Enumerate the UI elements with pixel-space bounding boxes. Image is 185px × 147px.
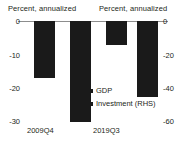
legend-item-gdp: GDP (89, 84, 156, 97)
legend-item-investment: Investment (RHS) (89, 97, 156, 110)
bar-gdp-2019q3 (106, 21, 127, 45)
left-axis-title: Percent, annualized (8, 4, 76, 13)
right-tick-0: 0 (163, 17, 185, 26)
legend-label-gdp: GDP (96, 86, 112, 95)
right-axis-title: Percent, annualized (99, 4, 167, 13)
left-tick-2: -20 (0, 84, 20, 93)
left-tick-0: 0 (0, 17, 20, 26)
bar-gdp-2009q4 (34, 21, 55, 78)
left-tick-3: -30 (0, 117, 20, 126)
category-label-2009q4: 2009Q4 (27, 126, 54, 135)
bar-investment-2009q4 (70, 21, 91, 122)
bar-chart: Percent, annualized Percent, annualized … (0, 0, 185, 147)
right-tick-2: -40 (163, 84, 185, 93)
left-tick-1: -10 (0, 51, 20, 60)
category-label-2019q3: 2019Q3 (93, 126, 120, 135)
right-tick-1: -20 (163, 51, 185, 60)
legend-label-investment: Investment (RHS) (96, 99, 156, 108)
legend-swatch-icon (89, 102, 93, 106)
legend: GDP Investment (RHS) (89, 84, 156, 110)
legend-swatch-icon (89, 89, 93, 93)
right-tick-3: -60 (163, 117, 185, 126)
